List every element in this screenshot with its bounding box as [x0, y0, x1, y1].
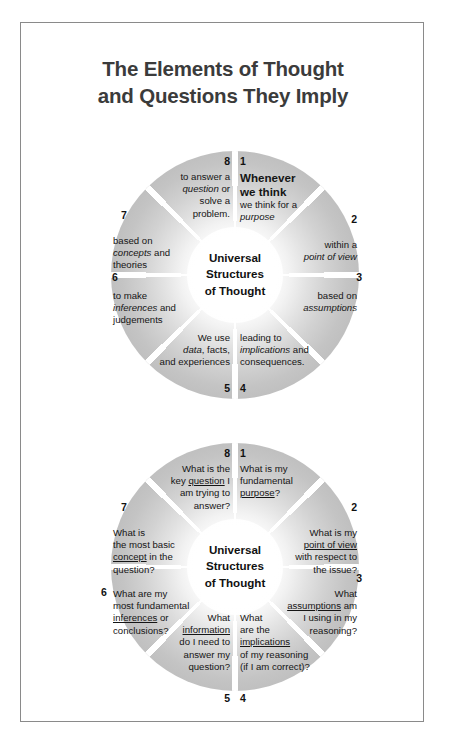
segment-3-text: based onassumptions	[303, 290, 357, 313]
center-line-3: of Thought	[205, 576, 266, 589]
segment-7-text: based onconcepts andtheories	[113, 235, 170, 270]
wheel-center-label: Universal Structures of Thought	[205, 542, 266, 591]
segment-number-1: 1	[240, 155, 246, 168]
wheel-question-6: 6 What are mymost fundamentalinferences …	[113, 588, 199, 637]
segment-1-lead: Wheneverwe think	[240, 171, 314, 199]
elements-of-thought-wheel: Universal Structures of Thought 1 Whenev…	[111, 151, 359, 399]
question-number-1: 1	[240, 447, 246, 460]
segment-1-text: we think for apurpose	[240, 199, 297, 222]
wheel-segment-6: 6 to makeinferences andjudgements	[113, 290, 191, 327]
question-number-2: 2	[351, 501, 357, 514]
center-line-2: Structures	[206, 268, 264, 281]
question-4-text: Whatare theimplicationsof my reasoning(i…	[240, 612, 310, 672]
wheel-segment-3: 3 based onassumptions	[283, 290, 357, 314]
wheel-segment-5: We usedata, facts,and experiences 5	[152, 332, 230, 369]
wheel-question-7: 7 What isthe most basicconcept in theque…	[113, 527, 195, 576]
question-2-text: What is mypoint of viewwith respect toth…	[295, 527, 357, 575]
question-number-3: 3	[356, 572, 362, 585]
question-8-text: What is thekey question Iam trying toans…	[171, 463, 230, 511]
segment-number-3: 3	[356, 271, 362, 284]
wheel-segment-1: 1 Wheneverwe think we think for apurpose	[240, 171, 314, 223]
segment-5-text: We usedata, facts,and experiences	[160, 332, 230, 367]
wheel-center-label: Universal Structures of Thought	[205, 250, 266, 299]
segment-number-4: 4	[240, 382, 246, 395]
question-number-8: 8	[224, 447, 230, 460]
segment-4-text: leading toimplications andconsequences.	[240, 332, 309, 367]
wheel-segment-7: 7 based onconcepts andtheories	[113, 235, 191, 272]
center-line-1: Universal	[209, 543, 261, 556]
wheel-question-2: 2 What is mypoint of viewwith respect to…	[277, 527, 357, 576]
question-number-5: 5	[224, 692, 230, 705]
poster-page: The Elements of Thought and Questions Th…	[20, 22, 424, 722]
segment-number-5: 5	[224, 382, 230, 395]
segment-number-7: 7	[121, 209, 127, 222]
wheel-segment-4: leading toimplications andconsequences. …	[240, 332, 316, 369]
segment-number-8: 8	[224, 155, 230, 168]
segment-8-text: to answer aquestion orsolve aproblem.	[180, 171, 230, 219]
page-title-line-1: The Elements of Thought	[21, 55, 425, 82]
center-line-2: Structures	[206, 560, 264, 573]
question-number-6: 6	[101, 586, 107, 599]
wheel-segment-8: 8 to answer aquestion orsolve aproblem.	[157, 171, 230, 220]
question-number-4: 4	[240, 692, 246, 705]
segment-number-2: 2	[351, 213, 357, 226]
questions-they-imply-wheel: Universal Structures of Thought 1 What i…	[111, 443, 359, 691]
center-line-3: of Thought	[205, 284, 266, 297]
segment-2-text: within apoint of view	[304, 239, 357, 262]
question-7-text: What isthe most basicconcept in thequest…	[113, 527, 175, 575]
page-title: The Elements of Thought and Questions Th…	[21, 55, 425, 109]
wheel-question-1: 1 What is myfundamentalpurpose?	[240, 463, 316, 500]
question-number-7: 7	[121, 501, 127, 514]
segment-6-text: to makeinferences andjudgements	[113, 290, 176, 325]
wheel-question-4: Whatare theimplicationsof my reasoning(i…	[240, 612, 318, 673]
center-line-1: Universal	[209, 251, 261, 264]
question-6-text: What are mymost fundamentalinferences or…	[113, 588, 189, 636]
page-title-line-2: and Questions They Imply	[21, 82, 425, 109]
wheel-segment-2: 2 within apoint of view	[283, 239, 357, 263]
wheel-question-8: 8 What is thekey question Iam trying toa…	[154, 463, 230, 512]
segment-number-6: 6	[112, 271, 118, 284]
question-1-text: What is myfundamentalpurpose?	[240, 463, 293, 498]
